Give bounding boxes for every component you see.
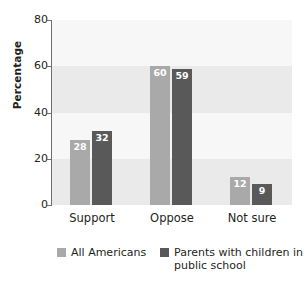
chart-legend: All Americans Parents with children in p… (0, 246, 307, 288)
bar-support-all-americans[interactable]: 28 (70, 140, 90, 205)
legend-swatch-icon-parents (160, 248, 169, 257)
plot-area: 28 32 60 59 12 9 (52, 20, 292, 205)
y-axis-tick-0 (47, 205, 52, 206)
y-tick-label-20: 20 (18, 153, 48, 165)
bar-value-support-all-americans: 28 (70, 142, 90, 152)
bar-value-not-sure-all-americans: 12 (230, 179, 250, 189)
legend-label-parents: Parents with children in public school (174, 246, 304, 272)
bar-value-oppose-all-americans: 60 (150, 68, 170, 78)
y-tick-label-80: 80 (18, 14, 48, 26)
legend-label-all-americans: All Americans (71, 246, 146, 259)
bar-chart: Percentage 80 60 40 20 0 28 32 60 5 (0, 0, 307, 291)
bar-oppose-all-americans[interactable]: 60 (150, 66, 170, 205)
bar-group-oppose: 60 59 (132, 20, 212, 205)
bar-group-not-sure: 12 9 (212, 20, 292, 205)
legend-item-all-americans[interactable]: All Americans (57, 246, 146, 259)
bar-not-sure-parents[interactable]: 9 (252, 184, 272, 205)
bar-support-parents[interactable]: 32 (92, 131, 112, 205)
bar-not-sure-all-americans[interactable]: 12 (230, 177, 250, 205)
bar-value-support-parents: 32 (92, 133, 112, 143)
legend-swatch-icon-all-americans (57, 248, 66, 257)
bar-oppose-parents[interactable]: 59 (172, 69, 192, 205)
bar-value-not-sure-parents: 9 (252, 186, 272, 196)
y-axis-tick-60 (47, 66, 52, 67)
legend-item-parents[interactable]: Parents with children in public school (160, 246, 304, 272)
bar-group-support: 28 32 (52, 20, 132, 205)
x-category-label-not-sure: Not sure (204, 210, 300, 226)
x-axis-category-labels: Support Oppose Not sure (52, 210, 292, 228)
bar-value-oppose-parents: 59 (172, 71, 192, 81)
y-axis-tick-80 (47, 20, 52, 21)
y-tick-label-40: 40 (18, 107, 48, 119)
y-axis-tick-40 (47, 113, 52, 114)
y-axis-tick-20 (47, 159, 52, 160)
y-tick-label-60: 60 (18, 60, 48, 72)
